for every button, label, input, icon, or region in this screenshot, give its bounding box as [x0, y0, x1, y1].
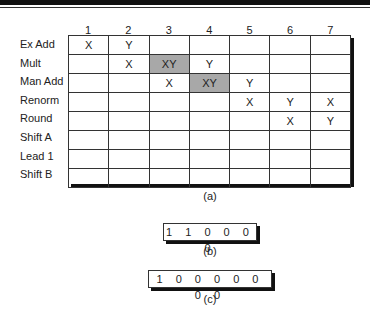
table-cell: X: [109, 55, 149, 74]
table-row: XY: [69, 112, 351, 131]
table-cell: [69, 150, 109, 169]
table-cell: [310, 74, 350, 93]
table-cell: [109, 150, 149, 169]
row-label: Round: [20, 109, 52, 127]
table-cell: [149, 36, 189, 55]
table-row: XYX: [69, 93, 351, 112]
row-label: Renorm: [20, 91, 59, 109]
table-cell: [270, 55, 310, 74]
table-cell: [310, 55, 350, 74]
table-row: [69, 131, 351, 150]
table-cell: [69, 93, 109, 112]
register-b: 1 1 0 0 0 0: [163, 223, 257, 241]
table-cell: [189, 112, 229, 131]
caption-c: (c): [190, 293, 230, 305]
table-cell: [109, 169, 149, 188]
table-cell: [310, 169, 350, 188]
table-cell: [109, 93, 149, 112]
reservation-grid: XYXXYYXXYYXYXXY: [68, 35, 351, 188]
table-cell: [149, 169, 189, 188]
row-label: Shift B: [20, 165, 52, 183]
table-cell: XY: [189, 74, 229, 93]
table-row: XXYY: [69, 55, 351, 74]
table-cell: Y: [109, 36, 149, 55]
table-cell: [310, 131, 350, 150]
table-cell: [149, 93, 189, 112]
row-label: Mult: [20, 54, 41, 72]
table-cell: [230, 55, 270, 74]
table-cell: [69, 55, 109, 74]
table-cell: [149, 131, 189, 150]
table-row: [69, 150, 351, 169]
table-cell: Y: [310, 112, 350, 131]
table-cell: [270, 74, 310, 93]
table-cell: [189, 169, 229, 188]
table-cell: [189, 36, 229, 55]
table-cell: [109, 131, 149, 150]
table-cell: [230, 131, 270, 150]
table-cell: [270, 169, 310, 188]
table-cell: X: [149, 74, 189, 93]
table-cell: X: [270, 112, 310, 131]
table-cell: Y: [270, 93, 310, 112]
table-cell: Y: [230, 74, 270, 93]
table-cell: [270, 131, 310, 150]
table-cell: [109, 74, 149, 93]
reservation-table: XYXXYYXXYYXYXXY: [68, 35, 351, 184]
table-cell: Y: [189, 55, 229, 74]
table-cell: XY: [149, 55, 189, 74]
row-label: Ex Add: [20, 35, 55, 53]
row-label: Lead 1: [20, 147, 54, 165]
table-cell: [230, 36, 270, 55]
table-cell: [189, 150, 229, 169]
table-cell: [310, 36, 350, 55]
top-rule-thick: [0, 0, 370, 5]
table-cell: [270, 36, 310, 55]
row-label: Man Add: [20, 72, 63, 90]
table-cell: [310, 150, 350, 169]
row-label: Shift A: [20, 128, 52, 146]
table-cell: [230, 150, 270, 169]
table-row: XXYY: [69, 74, 351, 93]
table-row: XY: [69, 36, 351, 55]
table-cell: [69, 74, 109, 93]
caption-b: (b): [190, 245, 230, 257]
table-cell: [69, 169, 109, 188]
caption-a: (a): [190, 190, 230, 202]
table-cell: [149, 112, 189, 131]
table-cell: X: [230, 93, 270, 112]
table-cell: [230, 112, 270, 131]
table-cell: X: [310, 93, 350, 112]
table-row: [69, 169, 351, 188]
register-c: 1 0 0 0 0 0 0 0: [148, 270, 272, 288]
table-cell: [109, 112, 149, 131]
table-cell: [230, 169, 270, 188]
table-cell: [149, 150, 189, 169]
table-cell: [189, 93, 229, 112]
table-cell: [189, 131, 229, 150]
top-rule-thin: [0, 7, 370, 8]
table-cell: [69, 131, 109, 150]
table-cell: X: [69, 36, 109, 55]
table-cell: [270, 150, 310, 169]
table-cell: [69, 112, 109, 131]
